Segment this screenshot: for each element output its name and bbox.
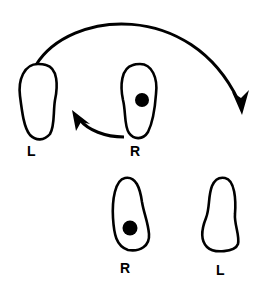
dot-icon [123,221,138,236]
foot-bottom-right [202,178,238,252]
label-bottom-left: R [120,260,130,276]
label-bottom-right: L [216,262,225,278]
foot-bottom-left [113,178,149,251]
label-top-right: R [130,143,140,159]
foot-placement-diagram: L R R L [0,0,262,284]
arrowhead-icon [232,90,249,115]
short-curve-arrow [72,110,124,137]
foot-top-left [20,64,57,139]
label-top-left: L [27,143,36,159]
foot-top-right [122,64,157,138]
dot-icon [135,93,149,107]
